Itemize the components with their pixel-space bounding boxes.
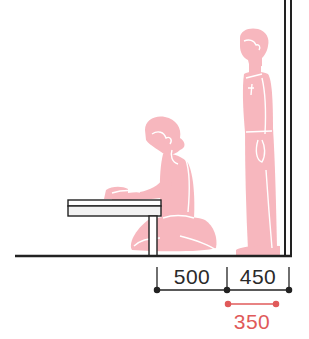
highlight-dimension-line [225, 301, 278, 306]
dimension-label-500: 500 [174, 266, 211, 287]
wall [285, 0, 291, 256]
seated-person-figure [104, 117, 217, 252]
diagram-canvas [0, 0, 309, 339]
dimension-label-350: 350 [234, 311, 271, 332]
dimension-label-450: 450 [240, 266, 277, 287]
